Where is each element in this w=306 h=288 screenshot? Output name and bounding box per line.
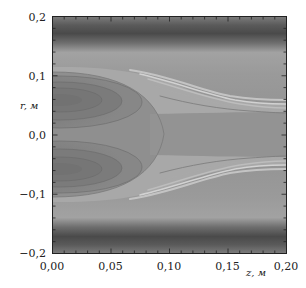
contour-chart: 0,2 0,1 0,0 −0,1 −0,2 r, м 0,00 0,05 0,1… xyxy=(0,0,306,288)
y-tick-label: −0,1 xyxy=(19,188,46,201)
x-tick-label: 0,00 xyxy=(40,260,65,273)
x-tick-label: 0,10 xyxy=(157,260,182,273)
y-tick-label: 0,0 xyxy=(29,129,47,142)
central-channel xyxy=(150,112,286,157)
x-tick-label: 0,05 xyxy=(98,260,123,273)
y-axis-label: r, м xyxy=(20,100,38,111)
y-tick-label: 0,1 xyxy=(29,70,47,83)
x-tick-label: 0,20 xyxy=(274,260,299,273)
x-axis: 0,00 0,05 0,10 0,15 0,20 z, м xyxy=(40,260,299,278)
x-axis-label: z, м xyxy=(245,267,266,278)
y-axis: 0,2 0,1 0,0 −0,1 −0,2 r, м xyxy=(19,11,46,260)
y-tick-label: 0,2 xyxy=(29,11,47,24)
x-tick-label: 0,15 xyxy=(215,260,240,273)
y-tick-label: −0,2 xyxy=(19,247,46,260)
